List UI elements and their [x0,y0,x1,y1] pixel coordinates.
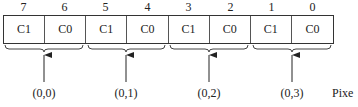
brace-pixel-0-2 [170,45,248,52]
pixel-coord-0-3: (0,3) [262,86,322,101]
pixel-coord-0-0: (0,0) [14,86,74,101]
pixel-label-truncated: Pixe [332,86,353,101]
pixel-coord-0-1: (0,1) [96,86,156,101]
brace-pixel-0-1 [88,45,165,52]
brace-pixel-0-0 [5,45,83,52]
pixel-coord-0-2: (0,2) [179,86,239,101]
brace-pixel-0-3 [253,45,331,52]
